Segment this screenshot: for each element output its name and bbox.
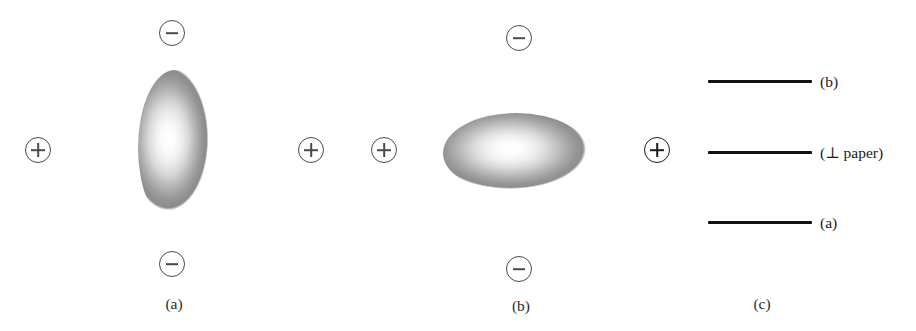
orbital-lobe-horizontal [443, 113, 589, 193]
minus-icon [165, 257, 179, 271]
negative-charge-top-a [159, 20, 185, 46]
plus-icon [304, 143, 318, 157]
panel-caption-c: (c) [740, 296, 784, 312]
positive-charge-left-b [371, 137, 397, 163]
positive-charge-left-a [25, 137, 51, 163]
panel-caption-b: (b) [499, 298, 543, 314]
energy-level-label-perp: (⊥ paper) [820, 145, 883, 161]
energy-level-line-a [708, 221, 812, 224]
panel-caption-a: (a) [152, 296, 196, 312]
minus-icon [512, 31, 526, 45]
crystal-field-splitting-figure: (a) (b) (b) (⊥ paper) (a) (c) [0, 0, 916, 331]
positive-charge-right-a [298, 137, 324, 163]
energy-level-label-b: (b) [820, 74, 838, 90]
positive-charge-right-b [644, 137, 670, 163]
negative-charge-bottom-a [159, 251, 185, 277]
minus-icon [165, 26, 179, 40]
orbital-lobe-vertical [138, 70, 212, 226]
energy-level-line-b [708, 80, 812, 83]
negative-charge-bottom-b [506, 256, 532, 282]
plus-icon [31, 143, 45, 157]
negative-charge-top-b [506, 25, 532, 51]
plus-icon [377, 143, 391, 157]
energy-level-label-a: (a) [820, 215, 837, 231]
energy-level-line-perp [708, 151, 812, 154]
minus-icon [512, 262, 526, 276]
plus-icon [650, 143, 664, 157]
